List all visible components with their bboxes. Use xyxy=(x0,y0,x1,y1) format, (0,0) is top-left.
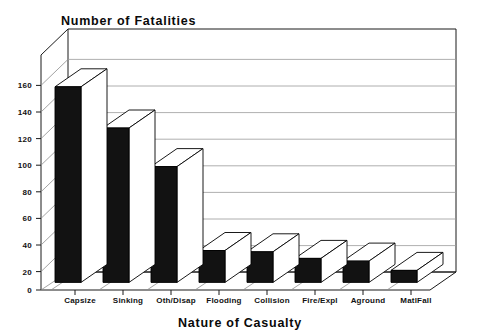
x-tick-label: Sinking xyxy=(113,296,143,305)
y-tick-label: 40 xyxy=(23,241,33,250)
bar-chart-canvas: Number of Fatalities Nature of Casualty … xyxy=(0,0,478,334)
bar-flooding[interactable] xyxy=(199,233,251,283)
y-tick-label: 100 xyxy=(18,161,32,170)
y-tick-labels: 160 140 120 100 80 60 40 20 0 xyxy=(18,81,33,295)
y-tick-label: 60 xyxy=(23,214,33,223)
y-tick-label: 120 xyxy=(18,135,32,144)
bar-side-face xyxy=(177,149,203,283)
x-tick-label: Oth/Disap xyxy=(156,296,196,305)
x-tick-label: Collision xyxy=(254,296,290,305)
x-axis-title: Nature of Casualty xyxy=(178,316,302,330)
x-tick-label: Aground xyxy=(351,296,386,305)
bar-front-face xyxy=(391,270,417,282)
bar-side-face xyxy=(81,69,107,283)
bar-sinking[interactable] xyxy=(103,110,155,282)
bar-side-face xyxy=(129,110,155,282)
bar-aground[interactable] xyxy=(343,243,395,282)
y-tick-label: 20 xyxy=(23,268,33,277)
y-tick-label: 0 xyxy=(27,286,32,295)
bar-capsize[interactable] xyxy=(55,69,107,283)
x-tick-label: Capsize xyxy=(64,296,96,305)
depth-edge-top-left xyxy=(41,29,68,55)
x-tick-label: Fire/Expl xyxy=(302,296,338,305)
bar-front-face xyxy=(55,87,81,283)
y-tick-label: 140 xyxy=(18,108,32,117)
bar-collision[interactable] xyxy=(247,234,299,283)
x-category-labels: Capsize Sinking Oth/Disap Flooding Colli… xyxy=(64,296,432,305)
bar-oth-disap[interactable] xyxy=(151,149,203,283)
y-tick-label: 160 xyxy=(18,81,32,90)
chart-figure: Number of Fatalities Nature of Casualty … xyxy=(0,0,478,334)
y-tickmarks xyxy=(36,85,41,290)
chart-title: Number of Fatalities xyxy=(61,14,196,28)
bar-fire-expl[interactable] xyxy=(295,240,347,282)
x-tick-label: MatlFall xyxy=(400,296,431,305)
x-tickmarks xyxy=(75,290,411,295)
bar-matlfall[interactable] xyxy=(391,252,443,282)
depth-edge-bottom-right xyxy=(430,272,456,290)
y-tick-label: 80 xyxy=(23,188,33,197)
x-tick-label: Flooding xyxy=(206,296,241,305)
